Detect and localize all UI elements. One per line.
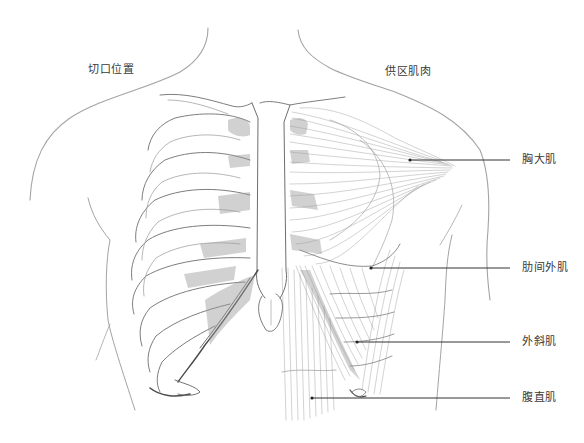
left-rib-cage	[132, 114, 258, 396]
sternum	[252, 103, 290, 331]
body-outline	[30, 28, 490, 410]
label-rectus-abdominis: 腹直肌	[522, 392, 557, 404]
donor-muscle-heading: 供区肌肉	[385, 66, 431, 78]
oblique-fibres	[296, 250, 404, 397]
label-pectoralis-major: 胸大肌	[522, 154, 557, 166]
leader-lines	[310, 158, 510, 399]
rectus-abdominis-fibres	[282, 268, 336, 420]
label-external-intercostal: 肋间外肌	[522, 262, 568, 274]
anatomy-figure: 切口位置 供区肌肉 胸大肌 肋间外肌 外斜肌 腹直肌	[0, 0, 584, 443]
right-muscles	[282, 108, 455, 420]
incision-site-heading: 切口位置	[88, 64, 134, 76]
label-external-oblique: 外斜肌	[522, 336, 557, 348]
